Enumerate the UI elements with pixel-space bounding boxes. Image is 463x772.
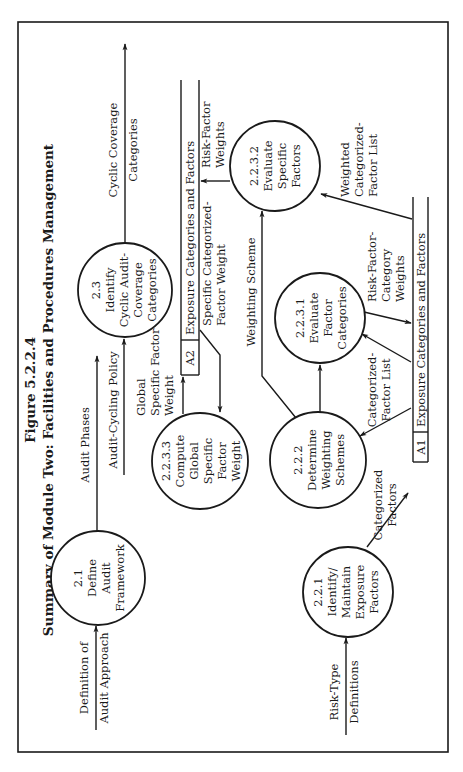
flow-label-gsfw-1: Global bbox=[134, 378, 148, 416]
process-2-1: 2.1 Define Audit Framework bbox=[51, 531, 145, 625]
figure-title: Figure 5.2.2.4 Summary of Module Two: Fa… bbox=[22, 143, 56, 636]
process-2-2-2: 2.2.2 Determine Weighting Schemes bbox=[270, 412, 366, 508]
flow-label-cyclic-coverage-1: Cyclic Coverage bbox=[106, 102, 120, 197]
svg-text:Evaluate: Evaluate bbox=[261, 140, 275, 191]
svg-text:Audit: Audit bbox=[99, 562, 113, 595]
svg-text:Categories: Categories bbox=[335, 286, 349, 349]
svg-text:Determine: Determine bbox=[305, 429, 319, 491]
flow-label-wcfl-2: Categorized- bbox=[352, 122, 366, 197]
flow-label-rfcw-1: Risk-Factor- bbox=[365, 232, 379, 302]
flow-label-rfw-1: Risk-Factor bbox=[199, 101, 213, 168]
flow-label-cfl-1: Categorized- bbox=[365, 353, 379, 428]
flow-label-cf-2: Factors bbox=[385, 483, 399, 527]
svg-text:Specific: Specific bbox=[201, 438, 215, 484]
process-2-2-3-2: 2.2.3.2 Evaluate Specific Factors bbox=[230, 121, 320, 211]
flow-label-scfw-1: Specific Categorized- bbox=[200, 201, 214, 326]
svg-text:Weight: Weight bbox=[229, 440, 243, 481]
svg-text:2.1: 2.1 bbox=[71, 569, 85, 587]
svg-text:Factors: Factors bbox=[289, 144, 303, 188]
svg-text:Factor: Factor bbox=[215, 442, 229, 480]
input-label-risk-type-1: Risk-Type bbox=[327, 663, 341, 720]
svg-text:Specific: Specific bbox=[275, 143, 289, 189]
data-store-a1-label: Exposure Categories and Factors bbox=[414, 233, 428, 427]
process-2-2-3-1: 2.2.3.1 Evaluate Factor Categories bbox=[275, 273, 365, 363]
svg-text:Categories: Categories bbox=[145, 258, 159, 321]
svg-text:Maintain: Maintain bbox=[339, 565, 353, 618]
flow-risk-factor-category-weights bbox=[364, 312, 411, 323]
data-store-a2: A2 Exposure Categories and Factors bbox=[181, 80, 199, 375]
data-store-a2-id: A2 bbox=[183, 350, 197, 367]
svg-text:Coverage: Coverage bbox=[131, 262, 145, 318]
svg-text:Weighting: Weighting bbox=[319, 430, 333, 490]
flow-label-gsfw-2: Specific Factor bbox=[148, 328, 162, 416]
svg-text:Schemes: Schemes bbox=[333, 434, 347, 486]
svg-text:Cyclic Audit-: Cyclic Audit- bbox=[117, 253, 131, 328]
flow-label-audit-cycling-policy: Audit-Cycling Policy bbox=[106, 351, 120, 470]
svg-text:Define: Define bbox=[85, 559, 99, 597]
process-2-2-1: 2.2.1 Identify/ Maintain Exposure Factor… bbox=[303, 547, 393, 637]
svg-text:Compute: Compute bbox=[173, 434, 187, 487]
svg-text:2.2.3.1: 2.2.3.1 bbox=[293, 298, 307, 338]
data-flow-diagram: Figure 5.2.2.4 Summary of Module Two: Fa… bbox=[0, 0, 463, 772]
svg-text:Identify: Identify bbox=[103, 267, 117, 313]
svg-text:Identify/: Identify/ bbox=[325, 567, 339, 616]
data-store-a1: A1 Exposure Categories and Factors bbox=[413, 197, 428, 462]
flow-label-rfcw-3: Weights bbox=[393, 255, 407, 302]
data-store-a1-id: A1 bbox=[414, 439, 428, 456]
flow-label-rfw-2: Weights bbox=[213, 121, 227, 168]
process-2-2-3-3: 2.2.3.3 Compute Global Specific Factor W… bbox=[152, 413, 248, 509]
svg-text:Framework: Framework bbox=[113, 543, 127, 611]
svg-text:2.2.3.2: 2.2.3.2 bbox=[247, 146, 261, 186]
svg-text:Factor: Factor bbox=[321, 299, 335, 337]
process-2-3: 2.3 Identify Cyclic Audit- Coverage Cate… bbox=[78, 243, 172, 337]
svg-text:Global: Global bbox=[187, 442, 201, 480]
flow-label-rfcw-2: Category bbox=[379, 248, 393, 302]
svg-text:Evaluate: Evaluate bbox=[307, 292, 321, 343]
svg-text:2.3: 2.3 bbox=[89, 281, 103, 299]
flow-label-wcfl-3: Factor List bbox=[366, 134, 380, 197]
svg-text:Exposure: Exposure bbox=[353, 564, 367, 619]
svg-text:2.2.2: 2.2.2 bbox=[291, 445, 305, 474]
figure-number: Figure 5.2.2.4 bbox=[22, 337, 38, 443]
flow-label-gsfw-3: Weight bbox=[162, 375, 176, 416]
input-label-audit-approach-2: Audit Approach bbox=[97, 632, 111, 725]
input-label-risk-type-2: Definitions bbox=[347, 660, 361, 723]
svg-text:2.2.1: 2.2.1 bbox=[311, 577, 325, 606]
input-label-audit-approach-1: Definition of bbox=[77, 641, 91, 714]
flow-label-weighting-scheme: Weighting Scheme bbox=[244, 237, 258, 346]
flow-label-cf-1: Categorized bbox=[371, 469, 385, 540]
flow-label-cfl-2: Factor List bbox=[379, 358, 393, 421]
flow-specific-categorized-factor-weight bbox=[200, 330, 220, 412]
svg-text:2.2.3.3: 2.2.3.3 bbox=[159, 441, 173, 481]
flow-label-cyclic-coverage-2: Categories bbox=[126, 118, 140, 181]
flow-label-scfw-2: Factor Weight bbox=[214, 244, 228, 326]
flow-label-audit-phases: Audit Phases bbox=[78, 407, 92, 484]
svg-text:Factors: Factors bbox=[367, 570, 381, 614]
data-store-a2-label: Exposure Categories and Factors bbox=[183, 141, 197, 335]
flow-label-wcfl-1: Weighted bbox=[338, 141, 352, 197]
